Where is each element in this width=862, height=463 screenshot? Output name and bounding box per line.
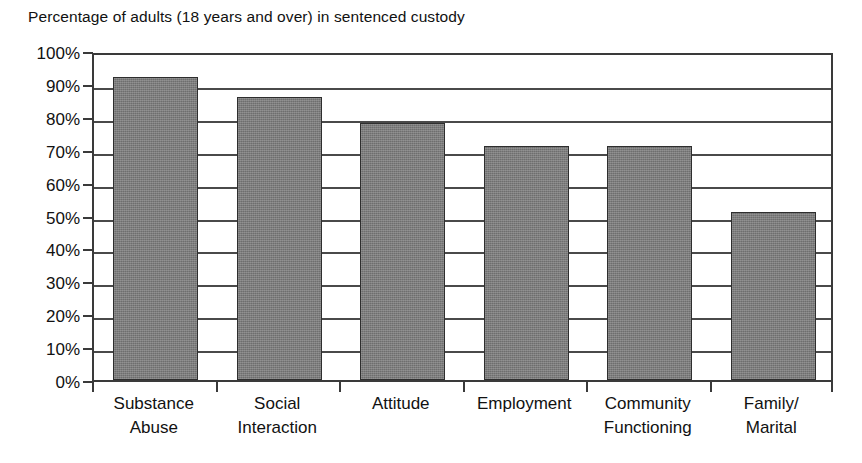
y-axis-tick-label: 70%: [46, 143, 80, 160]
y-axis-tick-label: 10%: [46, 341, 80, 358]
x-axis-category-label-line: Abuse: [86, 416, 222, 440]
x-axis-tick-mark: [831, 382, 833, 392]
y-axis-tick-label: 90%: [46, 77, 80, 94]
x-axis-labels: SubstanceAbuseSocialInteractionAttitudeE…: [92, 392, 833, 460]
bars-layer: [94, 55, 831, 380]
bar-texture: [732, 213, 815, 379]
x-axis-category-label-line: Substance: [86, 392, 222, 416]
bar: [237, 97, 322, 380]
y-axis-tick-label: 100%: [37, 45, 80, 62]
y-axis-tick-label: 0%: [55, 374, 80, 391]
x-axis-category-label-line: Marital: [704, 416, 840, 440]
x-axis-category-label: Employment: [457, 392, 593, 416]
x-axis-category-label: SubstanceAbuse: [86, 392, 222, 440]
x-axis-category-label: Family/Marital: [704, 392, 840, 440]
x-axis-tick-mark: [216, 382, 218, 392]
y-axis-tick-label: 80%: [46, 110, 80, 127]
bar-texture: [361, 124, 444, 379]
y-axis-tick-label: 40%: [46, 242, 80, 259]
bar-texture: [238, 98, 321, 379]
y-axis-tick-label: 30%: [46, 275, 80, 292]
x-axis-category-label: SocialInteraction: [210, 392, 346, 440]
x-axis-category-label-line: Interaction: [210, 416, 346, 440]
x-axis-tick-mark: [710, 382, 712, 392]
bar-texture: [608, 147, 691, 379]
x-axis-category-label-line: Community: [580, 392, 716, 416]
x-axis-category-label: Attitude: [333, 392, 469, 416]
x-axis-category-label: CommunityFunctioning: [580, 392, 716, 440]
y-axis-tick-label: 20%: [46, 308, 80, 325]
x-axis-category-label-line: Attitude: [333, 392, 469, 416]
x-axis-tick-mark: [463, 382, 465, 392]
x-axis-category-label-line: Functioning: [580, 416, 716, 440]
chart-title: Percentage of adults (18 years and over)…: [28, 7, 465, 27]
bar: [484, 146, 569, 380]
bar: [607, 146, 692, 380]
y-axis: 100%90%80%70%60%50%40%30%20%10%0%: [0, 0, 92, 463]
x-axis-category-label-line: Employment: [457, 392, 593, 416]
bar-texture: [485, 147, 568, 379]
bar-texture: [114, 78, 197, 379]
y-axis-tick-label: 50%: [46, 209, 80, 226]
x-axis-tick-mark: [92, 382, 94, 392]
bar: [113, 77, 198, 380]
x-axis-category-label-line: Family/: [704, 392, 840, 416]
x-axis-tick-mark: [339, 382, 341, 392]
y-axis-tick-label: 60%: [46, 176, 80, 193]
x-axis-category-label-line: Social: [210, 392, 346, 416]
plot-area: [92, 53, 833, 382]
bar: [360, 123, 445, 380]
bar-chart-figure: Percentage of adults (18 years and over)…: [0, 0, 862, 463]
x-axis-tick-mark: [586, 382, 588, 392]
bar: [731, 212, 816, 380]
